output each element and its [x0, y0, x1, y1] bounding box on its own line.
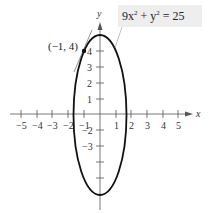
svg-text:3: 3: [145, 120, 150, 131]
equation-label: 9x2 + y2 = 25: [122, 9, 185, 24]
svg-text:1: 1: [87, 94, 92, 105]
svg-text:−4: −4: [32, 120, 43, 131]
svg-text:4: 4: [87, 46, 92, 57]
point-label: (−1, 4): [48, 40, 78, 52]
x-axis-arrow-icon: [185, 112, 193, 117]
svg-text:2: 2: [129, 120, 134, 131]
equation-leader-line: [115, 27, 122, 48]
ellipse-graph: −5 −4 −3 −2 −1 1 2 3 4 5 4 3 2 1 −2 −3 x…: [0, 0, 209, 214]
x-tick-labels: −5 −4 −3 −2 −1 1 2 3 4 5: [16, 120, 181, 131]
svg-text:−3: −3: [47, 120, 58, 131]
svg-text:−2: −2: [63, 120, 74, 131]
y-axis-arrow-icon: [98, 22, 103, 30]
y-axis-label: y: [96, 8, 102, 19]
point-marker: [82, 49, 86, 53]
svg-text:2: 2: [87, 78, 92, 89]
svg-text:−3: −3: [82, 141, 93, 152]
svg-text:1: 1: [114, 120, 119, 131]
y-tick-labels: 4 3 2 1 −2 −3: [82, 46, 93, 152]
svg-text:3: 3: [87, 62, 92, 73]
svg-text:−2: −2: [82, 125, 93, 136]
svg-text:4: 4: [161, 120, 166, 131]
svg-text:5: 5: [176, 120, 181, 131]
svg-text:−5: −5: [16, 120, 27, 131]
x-axis-label: x: [195, 108, 201, 119]
